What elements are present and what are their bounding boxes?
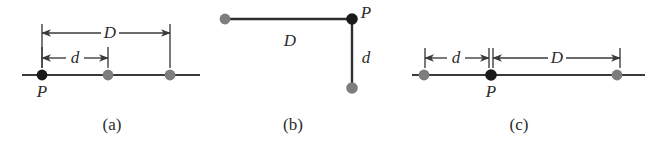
point-r — [165, 70, 176, 81]
label-d-large: D — [283, 31, 297, 50]
point-p-label: P — [36, 82, 47, 101]
panel-a: DdP(a) — [22, 23, 200, 134]
point-r — [346, 82, 358, 94]
dimension-d-large-label: D — [550, 48, 564, 67]
point-r — [612, 70, 623, 81]
panel-c-caption: (c) — [510, 115, 529, 134]
physics-diagram: DdP(a) DdP(b) dDP(c) — [0, 0, 659, 146]
point-p — [37, 70, 48, 81]
label-d-small: d — [362, 48, 371, 67]
point-p-label: P — [360, 3, 371, 22]
point-p-label: P — [485, 82, 496, 101]
point-p — [485, 69, 497, 81]
panel-b: DdP(b) — [220, 3, 372, 134]
figure-container: DdP(a) DdP(b) dDP(c) — [0, 0, 659, 146]
point-p — [346, 13, 358, 25]
panel-c: dDP(c) — [412, 48, 645, 134]
dimension-d-large-label: D — [103, 23, 117, 42]
panel-b-caption: (b) — [283, 115, 303, 134]
point-q — [419, 70, 430, 81]
dimension-d-small-label: d — [452, 48, 461, 67]
panel-a-caption: (a) — [103, 115, 122, 134]
point-q — [220, 14, 231, 25]
dimension-d-small-label: d — [71, 48, 80, 67]
point-q — [103, 70, 114, 81]
